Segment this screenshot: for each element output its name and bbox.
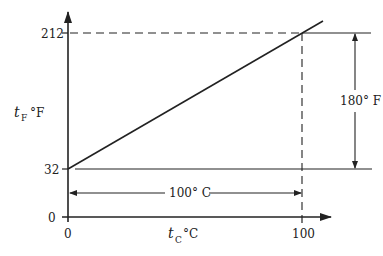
x-tick-label-100: 100 bbox=[292, 227, 315, 241]
y-tick-label-0: 0 bbox=[48, 211, 56, 225]
delta-f-label: 180° F bbox=[340, 94, 381, 108]
y-axis-label: t F °F bbox=[14, 104, 44, 123]
y-tick-label-212: 212 bbox=[41, 27, 64, 41]
celsius-fahrenheit-diagram: 180° F 100° C 212 32 0 0 100 t F °F t C … bbox=[0, 0, 383, 256]
x-axis-label-main: t bbox=[168, 225, 174, 241]
x-axis-label-sub: C bbox=[175, 235, 182, 245]
x-axis-label-unit: °C bbox=[183, 227, 198, 241]
x-tick-label-0: 0 bbox=[64, 227, 72, 241]
y-axis-label-sub: F bbox=[21, 113, 27, 123]
conversion-line bbox=[68, 21, 323, 169]
x-axis-label: t C °C bbox=[168, 225, 198, 245]
y-axis-label-unit: °F bbox=[30, 106, 44, 120]
y-tick-label-32: 32 bbox=[44, 163, 59, 177]
y-axis-label-main: t bbox=[14, 104, 20, 120]
delta-c-label: 100° C bbox=[169, 186, 211, 200]
